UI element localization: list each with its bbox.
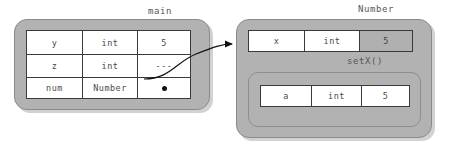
field-type-cell: int — [304, 31, 359, 51]
variable-name-cell: num — [27, 78, 82, 98]
main-variables-table: y int 5 z int --- num Number — [26, 30, 191, 99]
variable-type-cell: int — [82, 55, 137, 77]
table-row: z int --- — [27, 54, 190, 77]
field-name-cell: x — [249, 31, 304, 51]
variable-reference-cell — [137, 78, 190, 98]
variable-name-cell: y — [27, 31, 82, 54]
object-frame-label: Number — [358, 4, 394, 14]
method-parameters-table: a int 5 — [260, 85, 410, 107]
table-row: num Number — [27, 77, 190, 98]
object-fields-table: x int 5 — [248, 30, 413, 52]
variable-name-cell: z — [27, 55, 82, 77]
parameter-value-cell: 5 — [361, 86, 409, 106]
main-frame-label: main — [148, 6, 172, 16]
variable-type-cell: int — [82, 31, 137, 54]
parameter-name-cell: a — [261, 86, 311, 106]
field-value-cell: 5 — [359, 31, 412, 51]
setx-method-frame: a int 5 — [248, 72, 421, 127]
variable-value-cell: 5 — [137, 31, 190, 54]
stack-heap-diagram: main y int 5 z int --- num Number — [0, 0, 449, 154]
number-object-frame: x int 5 setX() a int 5 — [236, 19, 432, 138]
parameter-type-cell: int — [311, 86, 361, 106]
method-frame-label: setX() — [347, 56, 383, 66]
table-row: x int 5 — [249, 31, 412, 51]
table-row: y int 5 — [27, 31, 190, 54]
pointer-dot-icon — [162, 86, 167, 91]
variable-type-cell: Number — [82, 78, 137, 98]
main-stack-frame: y int 5 z int --- num Number — [14, 19, 210, 110]
variable-value-cell: --- — [137, 55, 190, 77]
table-row: a int 5 — [261, 86, 409, 106]
